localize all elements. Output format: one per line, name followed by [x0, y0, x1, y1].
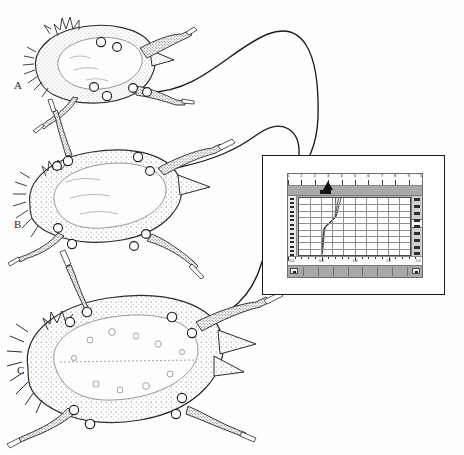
scale-tick [328, 257, 329, 259]
ruler-tick [290, 246, 294, 248]
scale-label: 1.5 [386, 259, 391, 264]
ruler-label: 2 [314, 174, 316, 179]
grid-line-vertical [310, 198, 311, 255]
scroll-marker [414, 219, 420, 222]
ruler-tick [290, 211, 294, 213]
grid-line-horizontal [299, 204, 410, 205]
ruler-tick [409, 180, 410, 185]
ruler-label: 3 [327, 174, 329, 179]
horizontal-scrollbar[interactable] [288, 265, 422, 277]
scale-label: 0.0 [290, 259, 295, 264]
ruler-tick [290, 228, 294, 230]
marker [96, 37, 105, 46]
ruler-tick [290, 224, 294, 226]
scale-tick [382, 257, 383, 259]
scroll-segment [377, 267, 378, 276]
marker [167, 312, 177, 322]
scale-tick [375, 257, 376, 259]
specimen-c [7, 250, 283, 448]
ruler-tick [288, 180, 289, 185]
grid-line-horizontal [299, 217, 410, 218]
scale-label: 1.0 [353, 259, 358, 264]
vertical-scrollbar[interactable] [411, 196, 422, 256]
ruler-tick [290, 237, 294, 239]
scale-label: 0.5 [319, 259, 324, 264]
marker [63, 156, 72, 165]
grid-line-vertical [366, 198, 367, 255]
marker [82, 307, 92, 317]
scale-tick [402, 257, 403, 259]
marker [85, 419, 95, 429]
application-window: 012345678910 0.00.51.01.52.0 [287, 173, 423, 278]
ruler-tick [301, 180, 302, 185]
scroll-marker [414, 212, 420, 215]
scale-tick [315, 257, 316, 259]
marker [130, 242, 139, 251]
ruler-tick [290, 215, 294, 217]
ruler-label: 7 [381, 174, 383, 179]
scroll-marker [414, 239, 420, 242]
ruler-tick [368, 180, 369, 185]
scale-tick [368, 257, 369, 259]
scroll-segment [362, 267, 363, 276]
horizontal-ruler[interactable]: 012345678910 [288, 174, 422, 186]
marker [177, 393, 186, 402]
ruler-label: 6 [367, 174, 369, 179]
grid-line-vertical [332, 198, 333, 255]
bottom-scale[interactable]: 0.00.51.01.52.0 [288, 256, 422, 265]
ruler-tick [395, 180, 396, 185]
ruler-tick [290, 241, 294, 243]
panel-label-b: B [14, 218, 22, 230]
scroll-marker [414, 246, 420, 249]
marker [142, 230, 151, 239]
grid-line-horizontal [299, 249, 410, 250]
scale-tick [335, 257, 336, 259]
marker [67, 239, 76, 248]
ruler-label: 5 [354, 174, 356, 179]
figure-canvas: A B C 012345678910 0.00.5 [0, 0, 464, 455]
toolbar[interactable] [288, 186, 422, 196]
grid-line-horizontal [299, 223, 410, 224]
ruler-label: 4 [340, 174, 342, 179]
ruler-label: 10 [420, 174, 422, 179]
grid-line-horizontal [299, 236, 410, 237]
scroll-segment [318, 267, 319, 276]
scale-tick [301, 257, 302, 259]
scale-tick [348, 257, 349, 259]
ruler-tick [290, 206, 294, 208]
scroll-marker [414, 225, 420, 228]
grid-line-vertical [388, 198, 389, 255]
ruler-tick [290, 219, 294, 221]
cable-a [150, 31, 318, 155]
marker [146, 167, 155, 176]
grid-line-horizontal [299, 211, 410, 212]
vertical-ruler[interactable] [288, 196, 297, 256]
scroll-marker [414, 252, 420, 255]
marker [143, 88, 152, 97]
ruler-tick [355, 180, 356, 185]
ruler-tick [382, 180, 383, 185]
playhead-cursor-icon[interactable] [323, 181, 333, 190]
marker [171, 409, 180, 418]
grid-line-horizontal [299, 242, 410, 243]
grid-line-horizontal [299, 230, 410, 231]
marker [90, 83, 99, 92]
chart-plot-area[interactable] [298, 197, 411, 256]
ruler-label: 8 [394, 174, 396, 179]
ruler-label: 0 [288, 174, 289, 179]
marker [69, 405, 78, 414]
scroll-marker [414, 205, 420, 208]
panel-label-c: C [17, 364, 25, 376]
playhead-base [320, 190, 331, 194]
ruler-tick [342, 180, 343, 185]
scroll-right-button[interactable] [412, 268, 420, 274]
grid-line-vertical [399, 198, 400, 255]
marker [102, 91, 111, 100]
ruler-tick [290, 250, 294, 252]
scroll-left-button[interactable] [290, 268, 298, 274]
marker [65, 317, 74, 326]
scroll-segment [303, 267, 304, 276]
scroll-segment [333, 267, 334, 276]
marker [53, 162, 62, 171]
marker [54, 224, 63, 233]
